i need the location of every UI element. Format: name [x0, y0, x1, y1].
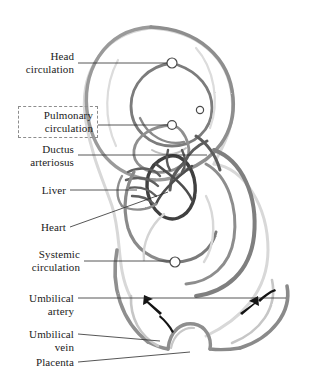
label-umbilical-vein: Umbilical vein [0, 328, 74, 353]
label-heart: Heart [0, 221, 66, 234]
label-systemic-circulation: Systemic circulation [0, 248, 80, 273]
marker-systemic-icon [170, 257, 180, 267]
label-ductus-arteriosus: Ductus arteriosus [0, 143, 74, 168]
label-pulmonary-circulation: Pulmonary circulation [18, 106, 98, 138]
leader-placenta [78, 352, 190, 362]
label-liver: Liver [0, 184, 66, 197]
heart-loop [147, 150, 195, 219]
head-loop [86, 27, 233, 180]
label-umbilical-artery: Umbilical artery [0, 292, 74, 317]
label-placenta: Placenta [0, 356, 74, 369]
marker-head-icon [167, 58, 177, 68]
label-head-circulation: Head circulation [0, 50, 74, 75]
marker-pulmonary-icon [168, 121, 177, 130]
fetal-circulation-figure: Head circulation Pulmonary circulation D… [0, 0, 314, 390]
placenta-bump [168, 324, 210, 349]
marker-head-2-icon [196, 106, 203, 113]
flow-arrow-left [143, 295, 174, 333]
